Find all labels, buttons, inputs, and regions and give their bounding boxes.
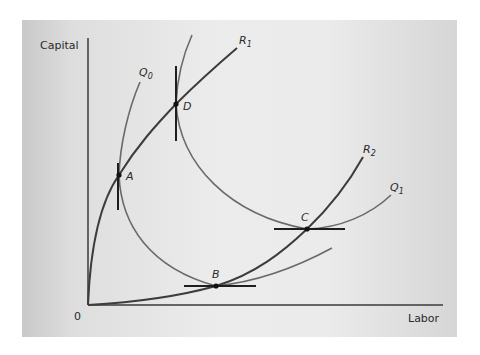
ridge-r1-label: R1	[239, 34, 252, 49]
origin-label: 0	[74, 310, 81, 323]
point-d	[173, 101, 178, 106]
isoquant-q0	[119, 82, 332, 286]
ridge-r2-label: R2	[363, 143, 376, 158]
point-a-label: A	[125, 170, 134, 183]
y-axis-label: Capital	[40, 39, 79, 52]
isoquant-q1-label: Q1	[390, 181, 404, 196]
ridge-line-r1	[88, 48, 237, 305]
point-d-label: D	[183, 100, 191, 113]
isoquant-q1	[176, 35, 391, 229]
x-axis-label: Labor	[408, 312, 440, 325]
isoquant-ridge-line-diagram: Capital Labor 0 A B C D R1 R2 Q0 Q1	[0, 0, 480, 355]
point-a	[116, 172, 121, 177]
point-b-label: B	[212, 268, 220, 281]
tangent-lines	[118, 66, 345, 286]
point-b	[213, 283, 218, 288]
isoquant-q0-label: Q0	[139, 66, 153, 81]
point-c	[304, 226, 309, 231]
points	[116, 101, 309, 288]
point-c-label: C	[301, 211, 309, 224]
